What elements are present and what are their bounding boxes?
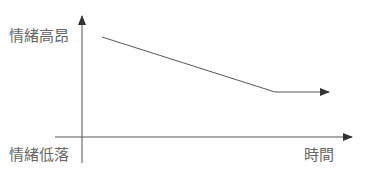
x-axis-label: 時間 xyxy=(304,146,334,164)
emotion-trend-line xyxy=(102,37,329,92)
y-axis-top-label: 情緒高昂 xyxy=(9,27,69,45)
y-axis-bottom-label: 情緒低落 xyxy=(9,146,69,164)
